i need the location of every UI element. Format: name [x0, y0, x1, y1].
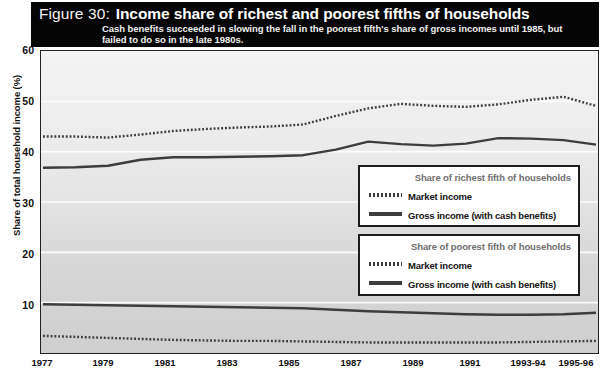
legend-richest-fifth: Share of richest fifth of households Mar…: [358, 165, 580, 227]
legend-richest-gross-row: Gross income (with cash benefits): [369, 209, 556, 221]
x-tick-1993-94: 1993-94: [511, 357, 546, 368]
figure-number: Figure 30:: [39, 5, 110, 22]
dotted-line-icon: [369, 262, 402, 266]
legend-poorest-fifth: Share of poorest fifth of households Mar…: [358, 234, 580, 296]
legend-richest-gross-label: Gross income (with cash benefits): [408, 210, 556, 221]
banner-title-row: Figure 30:Income share of richest and po…: [39, 5, 530, 23]
series-line-0: [43, 97, 596, 138]
x-tick-1995-96: 1995-96: [559, 357, 594, 368]
x-tick-1979: 1979: [92, 357, 113, 368]
figure-title-banner: Figure 30:Income share of richest and po…: [31, 2, 599, 47]
legend-poorest-market-label: Market income: [408, 260, 472, 271]
legend-richest-title: Share of richest fifth of households: [415, 172, 571, 183]
figure-subtitle: Cash benefits succeeded in slowing the f…: [102, 24, 589, 45]
legend-richest-market-label: Market income: [408, 191, 472, 202]
x-tick-1983: 1983: [216, 357, 237, 368]
page-title: Income share of richest and poorest fift…: [116, 5, 530, 22]
y-axis-label: Share of total household income (%): [11, 46, 22, 266]
series-line-1: [43, 138, 596, 168]
legend-poorest-market-row: Market income: [369, 259, 472, 271]
x-tick-1985: 1985: [278, 357, 299, 368]
x-tick-1987: 1987: [340, 357, 361, 368]
series-line-3: [43, 304, 596, 315]
solid-line-icon: [369, 212, 402, 216]
x-tick-1989: 1989: [402, 357, 423, 368]
x-tick-1981: 1981: [154, 357, 175, 368]
dotted-line-icon: [369, 193, 402, 197]
legend-richest-market-row: Market income: [369, 190, 472, 202]
x-tick-1991: 1991: [459, 357, 480, 368]
y-tick-10: 10: [0, 299, 34, 311]
series-line-2: [43, 336, 596, 343]
legend-poorest-title: Share of poorest fifth of households: [411, 241, 571, 252]
legend-poorest-gross-label: Gross income (with cash benefits): [408, 279, 556, 290]
figure-container: Figure 30:Income share of richest and po…: [0, 0, 601, 371]
solid-line-icon: [369, 281, 402, 285]
x-tick-1977: 1977: [31, 357, 52, 368]
legend-poorest-gross-row: Gross income (with cash benefits): [369, 278, 556, 290]
